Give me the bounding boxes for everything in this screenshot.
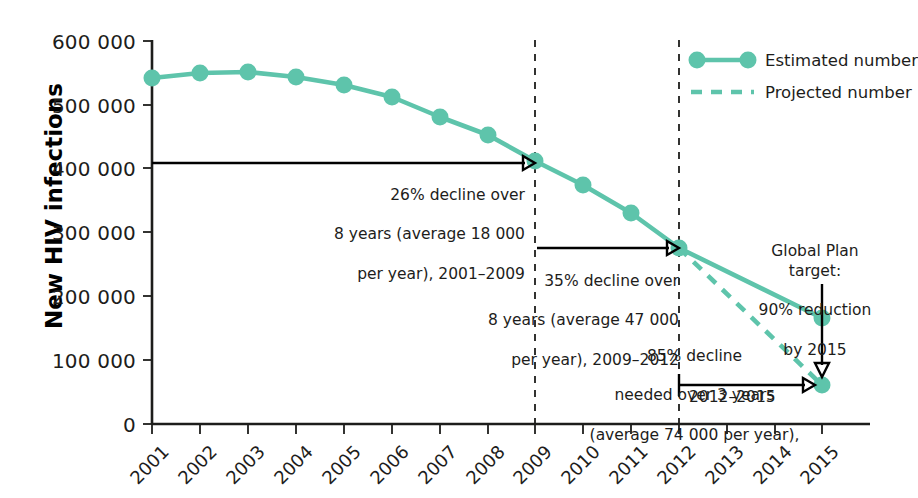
annotation-decline-2001-2009-line2: 8 years (average 18 000 (275, 225, 525, 245)
annotation-decline-2012-2015-line3: (average 74 000 per year), (568, 426, 821, 446)
annotation-global-plan-target-line3: by 2015 (745, 341, 885, 361)
y-tick-label-600000: 600 000 (0, 30, 136, 54)
data-point (192, 65, 209, 82)
legend-item-projected-number: Projected number (765, 83, 912, 102)
data-point (480, 127, 497, 144)
annotation-decline-2009-2012-line1: 35% decline over (421, 272, 679, 292)
data-point (240, 64, 257, 81)
data-point (623, 205, 640, 222)
legend-item-estimated-number: Estimated number (765, 51, 918, 70)
data-point (432, 109, 449, 126)
legend-solid-marker-right (740, 52, 757, 69)
annotation-decline-2001-2009-line1: 26% decline over (275, 186, 525, 206)
legend-glyphs (689, 52, 757, 93)
annotation-decline-2012-2015-years: 2012–2015 (689, 388, 809, 408)
data-point (384, 89, 401, 106)
annotation-global-plan-target-line1: Global Plan target: (745, 242, 885, 282)
y-tick-label-300000: 300 000 (0, 221, 136, 245)
y-tick-label-0: 0 (0, 413, 136, 437)
data-point (575, 177, 592, 194)
y-tick-label-200000: 200 000 (0, 285, 136, 309)
y-axis-ticks (143, 41, 152, 424)
data-point (144, 70, 161, 87)
legend-solid-marker-left (689, 52, 706, 69)
y-tick-label-400000: 400 000 (0, 157, 136, 181)
data-point (336, 77, 353, 94)
annotation-global-plan-target-line2: 90% reduction (745, 301, 885, 321)
annotation-global-plan-target: Global Plan target: 90% reduction by 201… (745, 222, 885, 381)
data-point (288, 69, 305, 86)
y-tick-label-100000: 100 000 (0, 349, 136, 373)
y-tick-label-500000: 500 000 (0, 94, 136, 118)
